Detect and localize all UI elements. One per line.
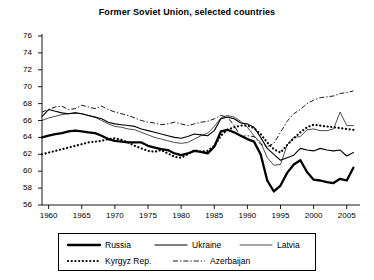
legend-swatch-russia: [67, 239, 101, 251]
x-tick-label: 2000: [301, 211, 327, 220]
legend-swatch-kyrgyz-rep: [67, 255, 101, 267]
legend-label-ukraine: Ukraine: [192, 240, 221, 250]
y-tick-label: 72: [16, 65, 32, 74]
legend-entry-latvia: Latvia: [239, 237, 300, 253]
legend-entry-azerbaijan: Azerbaijan: [172, 253, 250, 269]
y-tick-label: 62: [16, 149, 32, 158]
y-tick-label: 58: [16, 183, 32, 192]
x-tick-label: 2005: [334, 211, 360, 220]
x-tick-label: 1960: [36, 211, 62, 220]
x-tick-label: 1980: [168, 211, 194, 220]
x-tick-label: 1965: [69, 211, 95, 220]
x-tick-label: 1970: [102, 211, 128, 220]
x-tick-label: 1995: [268, 211, 294, 220]
series-line-azerbaijan: [42, 91, 353, 147]
series-line-russia: [42, 130, 353, 192]
legend-swatch-azerbaijan: [172, 255, 206, 267]
legend-label-russia: Russia: [105, 240, 131, 250]
y-tick-label: 68: [16, 99, 32, 108]
legend-entry-ukraine: Ukraine: [154, 237, 221, 253]
legend-label-azerbaijan: Azerbaijan: [210, 256, 250, 266]
legend-entry-russia: Russia: [67, 237, 131, 253]
y-tick-label: 66: [16, 116, 32, 125]
legend-entry-kyrgyz-rep: Kyrgyz Rep.: [67, 253, 151, 269]
x-tick-label: 1985: [201, 211, 227, 220]
axes: [38, 34, 360, 209]
x-tick-label: 1990: [234, 211, 260, 220]
x-tick-label: 1975: [135, 211, 161, 220]
legend-label-kyrgyz-rep: Kyrgyz Rep.: [105, 256, 151, 266]
legend-swatch-latvia: [239, 239, 273, 251]
data-series-group: [42, 91, 353, 192]
legend-label-latvia: Latvia: [277, 240, 300, 250]
y-tick-label: 74: [16, 48, 32, 57]
chart-legend: Russia Ukraine Latvia Kyrgyz Rep. Azerba…: [58, 233, 316, 271]
y-tick-label: 60: [16, 166, 32, 175]
series-line-ukraine: [42, 110, 353, 161]
legend-swatch-ukraine: [154, 239, 188, 251]
chart-container: Former Soviet Union, selected countries …: [0, 0, 374, 280]
y-tick-label: 76: [16, 31, 32, 40]
y-tick-label: 56: [16, 200, 32, 209]
y-tick-label: 64: [16, 132, 32, 141]
legend-row-2: Kyrgyz Rep. Azerbaijan: [59, 253, 315, 269]
series-line-latvia: [42, 112, 353, 165]
y-tick-label: 70: [16, 82, 32, 91]
legend-row-1: Russia Ukraine Latvia: [59, 237, 315, 253]
